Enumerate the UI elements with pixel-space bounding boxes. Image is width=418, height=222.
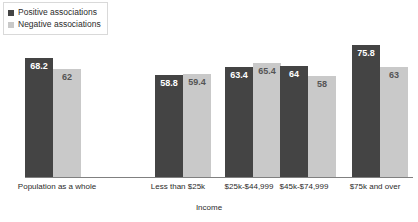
bar-negative: 58 [308,76,336,177]
bar-positive: 75.8 [352,45,380,177]
bar-value-label: 63 [389,70,399,177]
x-axis-title: Income [0,203,418,212]
legend-label-positive: Positive associations [18,7,97,18]
bar-value-label: 58 [317,79,327,177]
bar-negative: 63 [380,67,408,177]
legend-swatch-positive [8,10,14,16]
bar-group: 6458 [280,45,336,177]
legend-swatch-negative [8,22,14,28]
bar-value-label: 65.4 [258,66,276,177]
category-label: $45k-$74,999 [265,182,343,191]
bar-value-label: 58.8 [160,78,178,177]
bar-negative: 62 [53,69,81,177]
legend-label-negative: Negative associations [18,19,101,30]
bar-positive: 68.2 [25,58,53,177]
category-label: Less than $25k [142,182,214,191]
bar-negative: 65.4 [253,63,281,177]
bar-group: 68.262 [25,45,81,177]
bar-chart: 68.26258.859.463.465.4645875.863 Populat… [0,0,418,222]
category-label: Population as a whole [12,182,102,191]
bar-value-label: 68.2 [30,61,48,177]
bar-value-label: 63.4 [230,70,248,177]
bar-positive: 63.4 [225,67,253,177]
bar-value-label: 75.8 [357,48,375,177]
legend-item-positive: Positive associations [8,7,101,18]
x-axis-baseline [25,177,413,178]
bar-value-label: 59.4 [188,77,206,177]
bar-group: 75.863 [352,45,408,177]
bar-positive: 64 [280,66,308,177]
legend-item-negative: Negative associations [8,19,101,30]
chart-legend: Positive associations Negative associati… [3,2,108,35]
bar-group: 63.465.4 [225,45,281,177]
bar-negative: 59.4 [183,74,211,177]
bar-value-label: 62 [62,72,72,177]
bar-value-label: 64 [289,69,299,177]
bar-positive: 58.8 [155,75,183,177]
category-label: $75k and over [336,182,414,191]
bar-group: 58.859.4 [155,45,211,177]
